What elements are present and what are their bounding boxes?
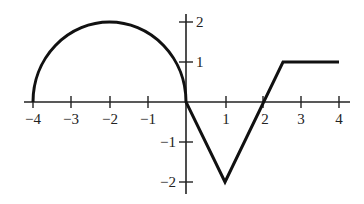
y-tick-label: −1 — [160, 134, 176, 150]
y-tick-label: 1 — [196, 54, 204, 70]
x-tick-label: −4 — [25, 111, 41, 127]
x-tick-label: −1 — [140, 111, 156, 127]
function-graph: −4 −3 −2 −1 1 2 3 4 2 1 −1 −2 — [0, 0, 364, 204]
y-tick-label: −2 — [160, 174, 176, 190]
x-tick-label: 3 — [297, 111, 305, 127]
x-tick-labels: −4 −3 −2 −1 1 2 3 4 — [25, 111, 343, 127]
x-tick-label: 1 — [222, 111, 230, 127]
x-tick-label: −2 — [102, 111, 118, 127]
x-tick-label: 2 — [261, 111, 269, 127]
x-tick-label: −3 — [63, 111, 79, 127]
y-tick-label: 2 — [196, 14, 204, 30]
x-tick-label: 4 — [335, 111, 343, 127]
